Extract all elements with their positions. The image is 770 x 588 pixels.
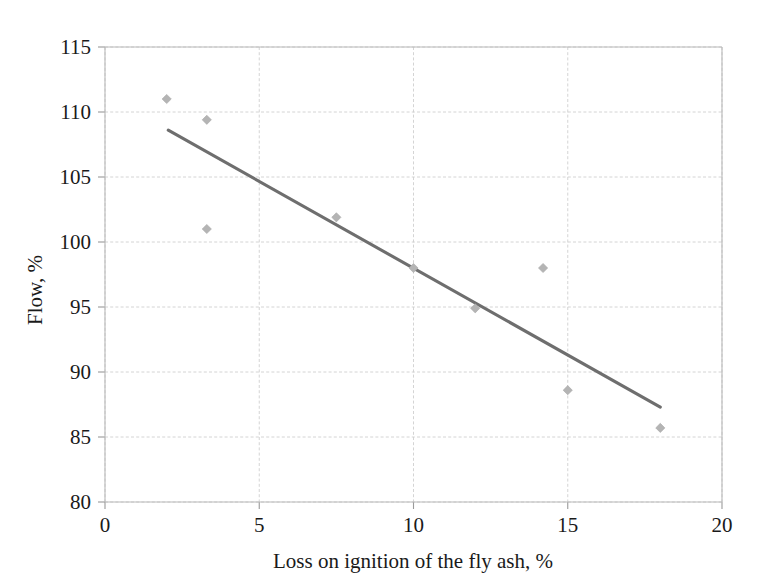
x-tick-label: 5 [254, 513, 265, 537]
y-tick-label: 115 [60, 35, 91, 59]
y-tick-label: 100 [60, 230, 92, 254]
chart-figure: 05101520 80859095100105110115 Loss on ig… [0, 0, 770, 588]
y-tick-label: 85 [70, 425, 91, 449]
scatter-plot: 05101520 80859095100105110115 Loss on ig… [0, 0, 770, 588]
x-tick-label: 10 [403, 513, 424, 537]
data-point-marker [538, 263, 547, 272]
y-tick-label: 80 [70, 490, 91, 514]
y-tick-label: 110 [60, 100, 91, 124]
data-point-marker [563, 386, 572, 395]
x-axis-title: Loss on ignition of the fly ash, % [273, 549, 553, 573]
y-axis-title: Flow, % [23, 255, 47, 325]
data-point-marker [202, 224, 211, 233]
tickmarks-group [98, 47, 722, 509]
x-tick-label: 15 [557, 513, 578, 537]
y-tick-label: 95 [70, 295, 91, 319]
y-tick-label: 105 [60, 165, 92, 189]
data-point-marker [202, 115, 211, 124]
gridlines-group [105, 47, 722, 502]
x-tick-labels: 05101520 [100, 513, 733, 537]
y-tick-labels: 80859095100105110115 [60, 35, 92, 514]
data-point-marker [162, 94, 171, 103]
x-tick-label: 20 [712, 513, 733, 537]
data-point-marker [332, 213, 341, 222]
y-tick-label: 90 [70, 360, 91, 384]
data-point-marker [656, 423, 665, 432]
x-tick-label: 0 [100, 513, 111, 537]
